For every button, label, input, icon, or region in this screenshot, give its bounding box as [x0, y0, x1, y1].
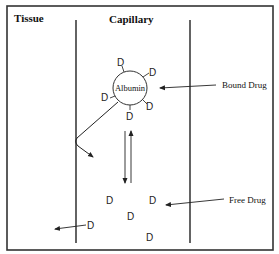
bound-drug: D	[117, 57, 124, 68]
bound-drug-label: Bound Drug	[222, 80, 267, 90]
free-drug: D	[106, 195, 113, 206]
free-drugs: D D D D	[106, 195, 156, 243]
albumin-to-tissue-arrow	[76, 102, 118, 157]
free-drug: D	[146, 232, 153, 243]
bound-drug: D	[101, 92, 108, 103]
frame-border	[7, 6, 273, 250]
diffusion-to-tissue-arrow	[55, 225, 86, 229]
bound-drug: D	[149, 67, 156, 78]
free-drug: D	[127, 211, 134, 222]
tissue-title: Tissue	[14, 12, 44, 24]
bound-drug: D	[146, 101, 153, 112]
diagram-canvas: Tissue Capillary Albumin D D D D D Bound…	[0, 0, 279, 254]
free-drug-arrow	[166, 199, 224, 205]
bound-drug: D	[126, 111, 133, 122]
albumin-label: Albumin	[115, 83, 146, 93]
capillary-title: Capillary	[109, 13, 154, 25]
bond-left	[110, 96, 115, 98]
free-drug-label: Free Drug	[229, 195, 266, 205]
bound-drug-arrow	[160, 85, 216, 88]
drug-binding-diagram: Tissue Capillary Albumin D D D D D Bound…	[0, 0, 279, 254]
free-drug: D	[149, 195, 156, 206]
tissue-drug: D	[87, 220, 94, 231]
